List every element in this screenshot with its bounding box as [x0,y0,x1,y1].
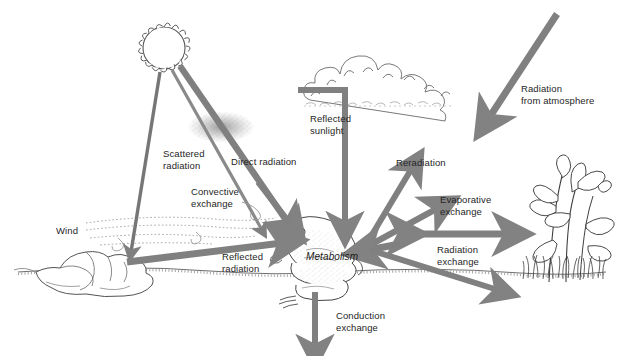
label-reradiation: Reradiation [396,157,446,169]
plant-icon [530,155,615,282]
label-convective-exchange: Convective exchange [191,186,239,209]
label-direct-radiation: Direct radiation [231,156,297,168]
diagram-artwork [0,0,621,356]
label-radiation-exchange: Radiation exchange [437,244,479,267]
label-scattered-radiation: Scattered radiation [163,148,205,171]
thermal-exchange-diagram: Scattered radiation Direct radiation Con… [0,0,621,356]
label-metabolism: Metabolism [306,251,358,263]
label-wind: Wind [56,225,78,237]
arrow-reflected-sunlight [298,90,345,225]
label-reflected-radiation: Reflected radiation [222,251,263,274]
label-conduction-exchange: Conduction exchange [336,310,385,333]
label-radiation-from-atmosphere: Radiation from atmosphere [521,83,594,106]
label-evaporative-exchange: Evaporative exchange [440,194,491,217]
label-reflected-sunlight: Reflected sunlight [310,113,351,136]
